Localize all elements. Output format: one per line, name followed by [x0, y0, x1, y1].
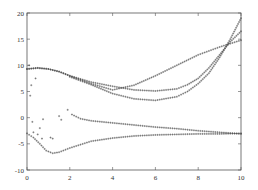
x-tick-label: 2 [68, 174, 72, 182]
data-points [26, 17, 242, 154]
x-tick-label: 10 [238, 174, 246, 182]
y-tick-label: 10 [17, 62, 25, 70]
y-tick-label: 20 [17, 10, 25, 18]
x-tick-label: 4 [111, 174, 115, 182]
scatter-chart: 0246810-10-505101520 [0, 0, 258, 190]
y-tick-label: 5 [21, 88, 25, 96]
y-tick-label: 0 [21, 114, 25, 122]
plot-border [27, 13, 241, 170]
x-tick-label: 6 [154, 174, 158, 182]
y-tick-label: -10 [15, 167, 25, 175]
axis-ticks: 0246810-10-505101520 [15, 10, 245, 183]
y-tick-label: 15 [17, 36, 25, 44]
x-tick-label: 0 [25, 174, 29, 182]
y-tick-label: -5 [18, 140, 24, 148]
x-tick-label: 8 [196, 174, 200, 182]
plot-frame [27, 13, 241, 170]
